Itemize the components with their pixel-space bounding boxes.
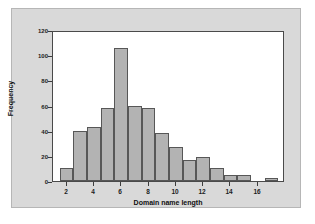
bar xyxy=(224,175,238,181)
bar xyxy=(155,133,169,181)
bar xyxy=(73,131,87,181)
x-tick-mark xyxy=(175,182,176,186)
y-tick-label: 60 xyxy=(26,104,48,110)
y-axis-title: Frequency xyxy=(7,69,14,129)
y-tick-label: 80 xyxy=(26,78,48,84)
x-tick-label: 6 xyxy=(113,188,127,195)
x-tick-label: 8 xyxy=(141,188,155,195)
x-tick-label: 2 xyxy=(59,188,73,195)
bar xyxy=(87,127,101,181)
bar xyxy=(265,178,279,181)
y-tick-label: 120 xyxy=(26,28,48,34)
x-tick-mark xyxy=(257,182,258,186)
x-tick-mark xyxy=(202,182,203,186)
y-tick-label: 100 xyxy=(26,53,48,59)
bar xyxy=(114,48,128,181)
y-tick-label: 20 xyxy=(26,154,48,160)
bar xyxy=(60,168,74,181)
bar xyxy=(101,108,115,181)
x-tick-mark xyxy=(148,182,149,186)
x-tick-mark xyxy=(229,182,230,186)
bar xyxy=(183,160,197,181)
bar-series xyxy=(53,32,283,181)
x-tick-label: 16 xyxy=(250,188,264,195)
x-tick-label: 10 xyxy=(168,188,182,195)
x-tick-mark xyxy=(93,182,94,186)
x-tick-mark xyxy=(120,182,121,186)
y-tick-label: 0 xyxy=(26,179,48,185)
y-tick-mark xyxy=(48,182,52,183)
x-axis-title: Domain name length xyxy=(52,199,284,206)
bar xyxy=(210,168,224,181)
x-tick-label: 12 xyxy=(195,188,209,195)
x-tick-mark xyxy=(66,182,67,186)
x-tick-label: 14 xyxy=(222,188,236,195)
bar xyxy=(169,147,183,181)
bar xyxy=(142,108,156,181)
x-tick-label: 4 xyxy=(86,188,100,195)
bar xyxy=(128,106,142,182)
bar xyxy=(237,175,251,181)
y-tick-label: 40 xyxy=(26,129,48,135)
histogram-figure: Frequency 020406080100120 246810121416 D… xyxy=(0,0,315,224)
bar xyxy=(196,157,210,181)
plot-area xyxy=(52,31,284,182)
